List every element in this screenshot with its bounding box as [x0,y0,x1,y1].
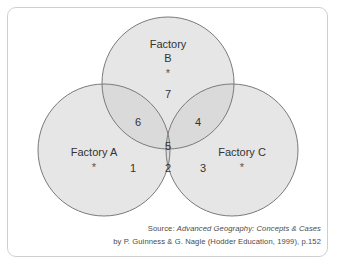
set-label-factory-c: Factory C [218,146,266,158]
region-label-a-and-c: 2 [165,162,171,174]
region-label-a-only: 1 [130,162,136,174]
set-marker-factory-b: * [166,67,171,79]
source-caption-line-1: Source: Advanced Geography: Concepts & C… [148,224,321,233]
region-label-b-and-c: 4 [195,116,201,128]
region-label-a-and-b: 6 [135,116,141,128]
region-label-b-only: 7 [165,88,171,100]
set-label-factory-a: Factory A [71,146,118,158]
region-label-a-and-b-and-c: 5 [165,140,171,152]
set-marker-factory-a: * [92,161,97,173]
source-caption-title: Advanced Geography: Concepts & Cases [177,224,321,233]
set-label-factory-b-line2: B [164,52,171,64]
venn-diagram-canvas: Factory B * Factory A * Factory C * 7 6 … [8,8,329,258]
source-caption-line-2: by P. Guinness & G. Nagle (Hodder Educat… [113,237,321,246]
source-caption-prefix: Source: [148,224,177,233]
set-marker-factory-c: * [240,161,245,173]
set-label-factory-b-line1: Factory [150,38,187,50]
region-label-c-only: 3 [200,162,206,174]
venn-diagram-figure: Factory B * Factory A * Factory C * 7 6 … [0,0,337,266]
